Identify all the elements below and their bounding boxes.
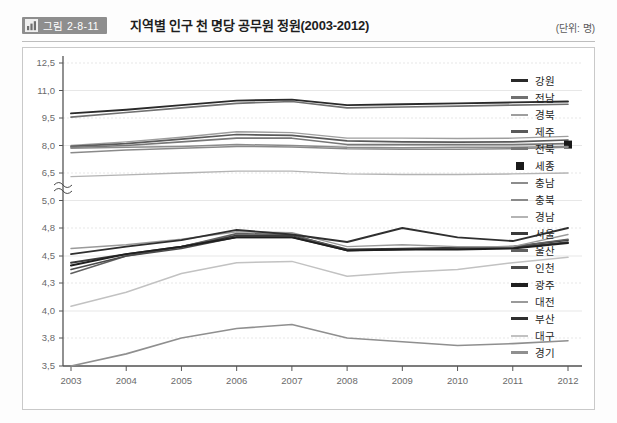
y-axis-tick-label: 11,0	[37, 85, 55, 96]
legend-item[interactable]: 충남	[511, 174, 611, 191]
legend-item[interactable]: 강원	[511, 72, 611, 89]
legend-line-swatch	[511, 317, 528, 320]
legend-item-label: 부산	[535, 311, 555, 326]
header-divider	[22, 41, 595, 42]
legend-item[interactable]: 부산	[511, 310, 611, 327]
legend-line-swatch	[511, 266, 528, 269]
legend-item-label: 대구	[535, 328, 555, 343]
y-axis-tick-label: 4,0	[42, 305, 55, 316]
series-line	[71, 257, 568, 306]
legend-item[interactable]: 대구	[511, 327, 611, 344]
legend-item-label: 전북	[535, 141, 555, 156]
legend-line-swatch	[511, 335, 528, 337]
legend-line-swatch	[511, 147, 528, 150]
legend-line-swatch	[511, 351, 528, 354]
y-axis-tick-label: 9,5	[42, 112, 55, 123]
x-axis-tick-label: 2010	[447, 375, 468, 386]
legend-item-label: 강원	[535, 73, 555, 88]
x-axis-tick-label: 2005	[171, 375, 192, 386]
legend-line-swatch	[511, 232, 528, 235]
legend-item-label: 충북	[535, 192, 555, 207]
legend-line-swatch	[511, 114, 528, 116]
x-axis-tick-label: 2003	[60, 375, 81, 386]
legend-item[interactable]: 전남	[511, 89, 611, 106]
y-axis-tick-label: 8,0	[42, 140, 55, 151]
x-axis-tick-label: 2006	[226, 375, 247, 386]
series-line	[71, 102, 568, 118]
legend-item[interactable]: 경기	[511, 344, 611, 361]
bar-chart-icon	[25, 19, 38, 32]
legend-item-label: 대전	[535, 294, 555, 309]
legend-item[interactable]: 경북	[511, 106, 611, 123]
legend-item-label: 인천	[535, 260, 555, 275]
figure-page: 그림 2-8-11 지역별 인구 천 명당 공무원 정원(2003-2012) …	[0, 0, 617, 423]
x-axis-tick-label: 2011	[503, 375, 523, 386]
legend-item[interactable]: 대전	[511, 293, 611, 310]
y-axis-tick-label: 6,5	[42, 167, 55, 178]
series-line	[71, 325, 568, 367]
chart-legend: 강원전남경북제주전북세종충남충북경남서울울산인천광주대전부산대구경기	[511, 72, 611, 361]
series-line	[71, 228, 568, 254]
legend-item[interactable]: 울산	[511, 242, 611, 259]
legend-item[interactable]: 충북	[511, 191, 611, 208]
legend-item-label: 충남	[535, 175, 555, 190]
legend-item[interactable]: 제주	[511, 123, 611, 140]
y-axis-tick-label: 5,0	[42, 195, 55, 206]
legend-item[interactable]: 서울	[511, 225, 611, 242]
y-axis-tick-label: 4,5	[42, 250, 55, 261]
figure-number-badge: 그림 2-8-11	[22, 17, 107, 34]
legend-item-label: 경기	[535, 345, 555, 360]
legend-item-label: 전남	[535, 90, 555, 105]
figure-number-text: 그림 2-8-11	[43, 18, 99, 33]
legend-item[interactable]: 광주	[511, 276, 611, 293]
legend-line-swatch	[511, 216, 528, 218]
y-axis-tick-label: 3,5	[42, 360, 55, 371]
legend-marker-swatch	[516, 162, 524, 170]
y-axis-tick-label: 3,8	[42, 332, 55, 343]
figure-unit-label: (단위: 명)	[556, 20, 595, 35]
series-line	[71, 171, 568, 177]
legend-item-label: 경남	[535, 209, 555, 224]
legend-item-label: 경북	[535, 107, 555, 122]
x-axis-tick-label: 2008	[337, 375, 358, 386]
legend-item[interactable]: 경남	[511, 208, 611, 225]
legend-item-label: 광주	[535, 277, 555, 292]
x-axis-tick-label: 2007	[281, 375, 302, 386]
x-axis-tick-label: 2009	[392, 375, 413, 386]
y-axis-tick-label: 4,3	[42, 277, 55, 288]
figure-title: 지역별 인구 천 명당 공무원 정원(2003-2012)	[130, 15, 369, 34]
legend-line-swatch	[511, 96, 528, 99]
legend-line-swatch	[511, 199, 528, 201]
legend-line-swatch	[511, 182, 528, 184]
legend-line-swatch	[511, 79, 528, 82]
legend-line-swatch	[511, 130, 528, 133]
legend-item-label: 서울	[535, 226, 555, 241]
figure-header: 그림 2-8-11 지역별 인구 천 명당 공무원 정원(2003-2012) …	[0, 0, 617, 46]
legend-line-swatch	[511, 301, 528, 303]
x-axis-tick-label: 2004	[116, 375, 137, 386]
legend-item-label: 울산	[535, 243, 555, 258]
y-axis-tick-label: 4,8	[42, 222, 55, 233]
chart-frame: 12,511,09,58,06,55,04,84,54,34,03,83,520…	[22, 47, 595, 410]
legend-item[interactable]: 세종	[511, 157, 611, 174]
legend-item[interactable]: 인천	[511, 259, 611, 276]
y-axis-tick-label: 12,5	[37, 57, 56, 68]
legend-line-swatch	[511, 249, 528, 252]
legend-item[interactable]: 전북	[511, 140, 611, 157]
x-axis-tick-label: 2012	[557, 375, 578, 386]
legend-line-swatch	[511, 283, 528, 287]
legend-item-label: 세종	[535, 158, 555, 173]
legend-item-label: 제주	[535, 124, 555, 139]
